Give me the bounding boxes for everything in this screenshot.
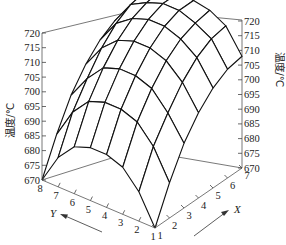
right-z-tick-label: 700 (244, 74, 260, 85)
right-z-tick-label: 695 (244, 89, 260, 100)
right-z-tick-label: 720 (244, 16, 260, 27)
left-z-tick-label: 700 (24, 86, 40, 97)
surface-chart: 720715710705700695690685680675670 720715… (0, 0, 286, 245)
left-z-tick-label: 705 (24, 72, 40, 83)
left-z-tick-label: 675 (24, 160, 40, 171)
x-tick-label: 7 (244, 170, 249, 181)
x-axis-letter: X (233, 203, 242, 215)
left-z-axis: 720715710705700695690685680675670 (24, 28, 46, 186)
y-tick-label: 7 (54, 190, 59, 201)
left-z-axis-title: 温度/℃ (4, 102, 16, 137)
y-tick-label: 6 (70, 197, 75, 208)
left-z-tick-label: 680 (24, 145, 40, 156)
y-tick-label: 5 (86, 204, 91, 215)
right-z-axis: 720715710705700695690685680675670 (238, 16, 260, 174)
x-tick-label: 1 (157, 230, 162, 241)
right-z-tick-label: 685 (244, 118, 260, 129)
right-z-tick-label: 690 (244, 104, 260, 115)
left-z-tick-label: 685 (24, 130, 40, 141)
y-axis-arrow (60, 214, 102, 232)
left-z-tick-label: 695 (24, 101, 40, 112)
x-tick-label: 5 (215, 190, 220, 201)
x-tick-label: 6 (230, 180, 235, 191)
y-tick-label: 4 (102, 210, 108, 221)
y-axis-letter: Y (50, 207, 58, 219)
right-z-tick-label: 680 (244, 133, 260, 144)
left-z-tick-label: 710 (24, 57, 40, 68)
right-z-tick-label: 710 (244, 45, 260, 56)
right-z-axis-title: 温度/℃ (274, 52, 286, 87)
x-tick-label: 4 (201, 200, 207, 211)
x-tick-label: 3 (186, 210, 191, 221)
y-tick-label: 2 (134, 224, 139, 235)
x-tick-label: 2 (172, 220, 177, 231)
y-tick-label: 8 (37, 183, 42, 194)
right-z-tick-label: 675 (244, 148, 260, 159)
left-z-tick-label: 690 (24, 116, 40, 127)
y-tick-label: 3 (118, 217, 123, 228)
left-z-tick-label: 715 (24, 42, 40, 53)
right-z-tick-label: 715 (244, 30, 260, 41)
left-z-tick-label: 720 (24, 28, 40, 39)
surface-mesh (42, 0, 242, 228)
y-tick-label: 1 (150, 231, 155, 242)
x-axis-arrow (194, 210, 229, 236)
right-z-tick-label: 705 (244, 60, 260, 71)
